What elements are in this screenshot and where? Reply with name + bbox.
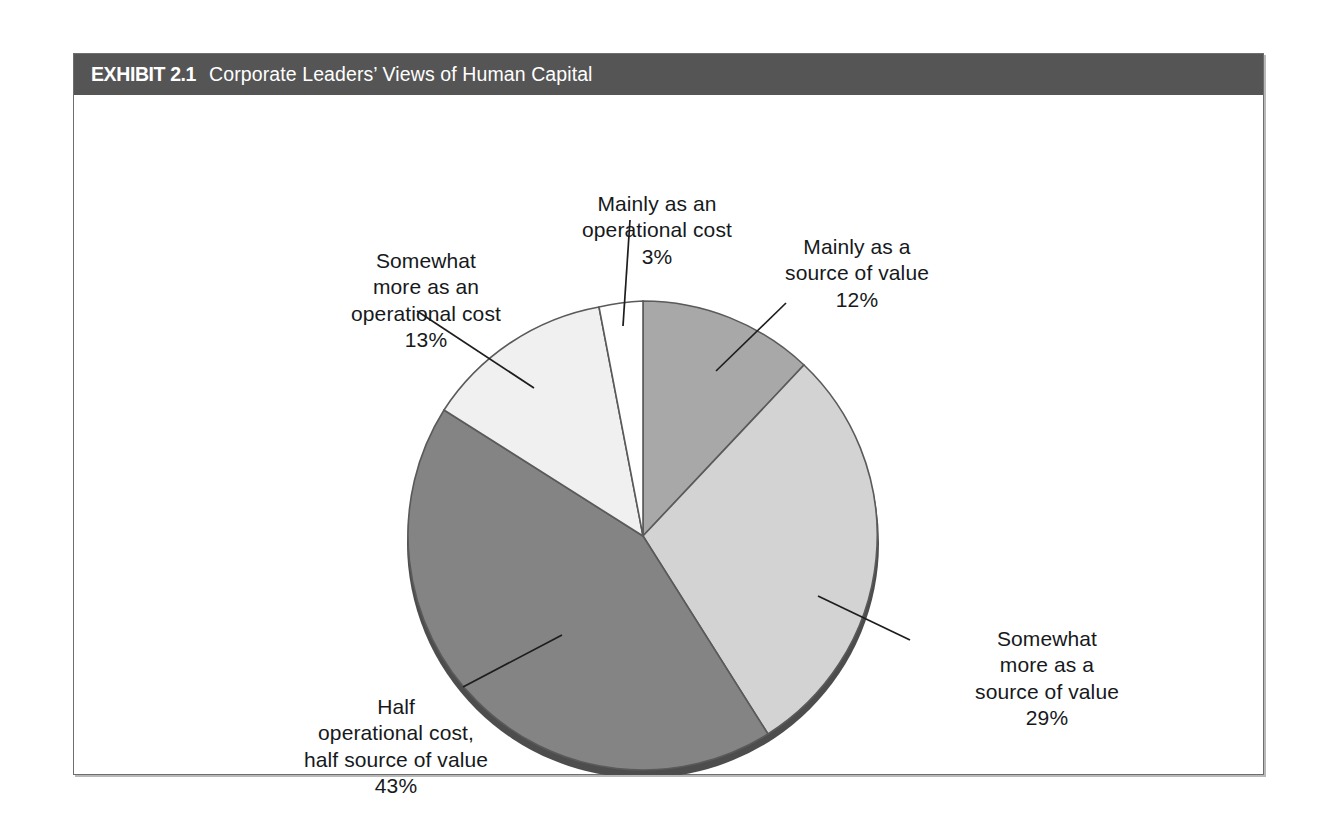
pie-label-value: 29% [917, 705, 1177, 732]
pie-label-text: Somewhat more as an operational cost [351, 249, 501, 325]
pie-label-text: Mainly as an operational cost [582, 192, 732, 242]
pie-label-half-half: Half operational cost, half source of va… [246, 667, 546, 826]
pie-label-value: 13% [296, 327, 556, 354]
exhibit-number-label: EXHIBIT 2.1 [91, 63, 196, 86]
exhibit-frame: EXHIBIT 2.1 Corporate Leaders’ Views of … [73, 53, 1264, 775]
pie-label-mainly-source-value: Mainly as a source of value 12% [727, 207, 987, 340]
pie-label-text: Mainly as a source of value [785, 235, 929, 285]
pie-label-somewhat-source-value: Somewhat more as a source of value 29% [917, 599, 1177, 758]
page-canvas: EXHIBIT 2.1 Corporate Leaders’ Views of … [0, 0, 1331, 832]
pie-label-value: 12% [727, 287, 987, 314]
exhibit-title: Corporate Leaders’ Views of Human Capita… [209, 63, 592, 86]
pie-label-text: Somewhat more as a source of value [975, 627, 1119, 703]
exhibit-header-bar: EXHIBIT 2.1 Corporate Leaders’ Views of … [74, 54, 1263, 95]
pie-label-value: 43% [246, 773, 546, 800]
pie-chart-area: Mainly as an operational cost 3% Somewha… [74, 95, 1263, 775]
pie-label-text: Half operational cost, half source of va… [304, 695, 488, 771]
pie-label-somewhat-operational-cost: Somewhat more as an operational cost 13% [296, 221, 556, 380]
